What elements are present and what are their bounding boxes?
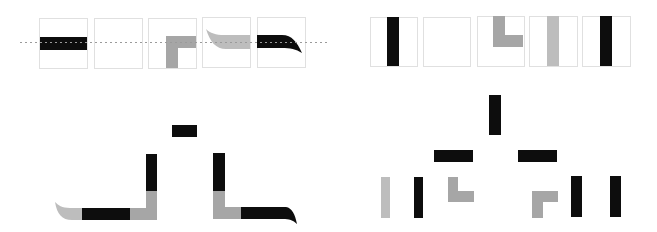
gray-corner-c	[493, 16, 523, 47]
left-corner	[130, 191, 157, 220]
leaf-gray-corner-2	[532, 191, 558, 218]
black-vertical-bar-a	[387, 17, 399, 66]
leaf-light-vertical	[381, 177, 390, 218]
black-swoosh-shape	[257, 35, 302, 53]
black-vertical-bar-e	[600, 16, 612, 66]
gray-swoosh-shape	[206, 29, 250, 49]
left-horizontal	[434, 150, 473, 162]
bottom-left-assembly	[55, 125, 297, 224]
leaf-black-vertical-3	[610, 176, 621, 217]
left-base-bar	[82, 208, 130, 220]
right-horizontal	[518, 150, 557, 162]
right-upright	[213, 153, 225, 191]
top-right-strip	[371, 16, 631, 67]
right-tail	[241, 207, 297, 224]
cell-2	[95, 19, 143, 69]
right-corner	[213, 191, 241, 219]
root-vertical	[489, 95, 501, 135]
leaf-black-vertical-1	[414, 177, 423, 218]
left-tail	[55, 202, 82, 220]
bottom-right-tree	[381, 95, 621, 218]
black-horizontal-bar	[40, 37, 87, 50]
top-left-strip	[20, 18, 328, 69]
gray-corner-shape	[166, 36, 196, 68]
diagram-svg	[0, 0, 657, 232]
leaf-black-vertical-2	[571, 176, 582, 217]
diagram-canvas	[0, 0, 657, 232]
left-upright	[146, 154, 157, 191]
leaf-gray-corner-1	[448, 177, 474, 202]
cell-b	[424, 18, 471, 67]
top-dot-bar	[172, 125, 197, 137]
light-gray-vertical-bar-d	[547, 16, 559, 66]
